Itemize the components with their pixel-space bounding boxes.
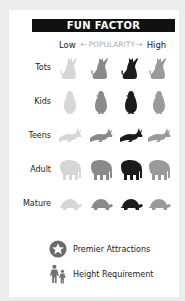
audience-row-kids: Kids — [9, 88, 179, 118]
cat-icon — [89, 56, 113, 80]
audience-label: Tots — [35, 63, 51, 72]
audience-row-mature: Mature — [9, 190, 179, 220]
penguin-icon — [58, 90, 82, 114]
audience-row-adult: Adult — [9, 156, 179, 186]
elephant-icon — [147, 158, 171, 182]
elephant-icon — [58, 158, 82, 182]
scale-low-label: Low — [59, 38, 76, 52]
penguin-icon — [89, 90, 113, 114]
turtle-icon — [147, 192, 171, 216]
rabbit-icon — [89, 124, 113, 148]
cat-icon — [147, 56, 171, 80]
cat-icon — [58, 56, 82, 80]
audience-label: Kids — [34, 97, 51, 106]
rabbit-icon — [58, 124, 82, 148]
elephant-icon — [89, 158, 113, 182]
legend-height-label: Height Requirement — [73, 270, 153, 279]
star-badge-icon — [49, 240, 67, 258]
card-title: FUN FACTOR — [32, 19, 175, 32]
audience-row-teens: Teens — [9, 122, 179, 152]
adult-child-icon — [49, 264, 67, 284]
elephant-icon — [119, 158, 143, 182]
right-arrow-icon: → — [136, 38, 143, 52]
audience-label: Mature — [23, 199, 51, 208]
legend-premier-label: Premier Attractions — [73, 245, 150, 254]
left-arrow-icon: ← — [81, 38, 88, 52]
audience-label: Adult — [30, 165, 51, 174]
rabbit-icon — [147, 124, 171, 148]
fun-factor-card: FUN FACTOR Low ← POPULARITY → High TotsK… — [9, 10, 179, 297]
popularity-scale: Low ← POPULARITY → High — [59, 38, 179, 52]
audience-label: Teens — [28, 131, 51, 140]
penguin-icon — [119, 90, 143, 114]
scale-middle-label: POPULARITY — [88, 38, 135, 52]
turtle-icon — [58, 192, 82, 216]
audience-row-tots: Tots — [9, 54, 179, 84]
penguin-icon — [147, 90, 171, 114]
legend-premier: Premier Attractions — [49, 239, 150, 259]
cat-icon — [119, 56, 143, 80]
rabbit-icon — [119, 124, 143, 148]
turtle-icon — [89, 192, 113, 216]
turtle-icon — [119, 192, 143, 216]
scale-high-label: High — [147, 38, 167, 52]
legend-height: Height Requirement — [49, 264, 153, 284]
